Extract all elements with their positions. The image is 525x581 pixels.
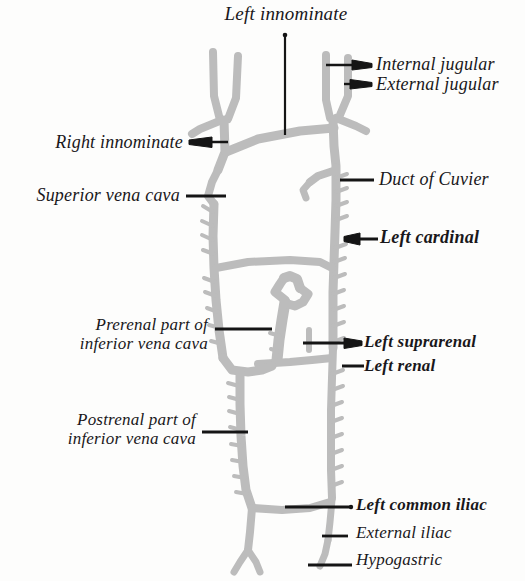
- label-superior-vena-cava: Superior vena cava: [0, 185, 180, 205]
- label-hypogastric: Hypogastric: [356, 550, 442, 569]
- label-left-innominate: Left innominate: [196, 3, 376, 24]
- label-right-innominate: Right innominate: [0, 132, 183, 152]
- label-external-jugular: External jugular: [376, 74, 499, 94]
- arrow-left-cardinal: [344, 233, 360, 245]
- arrow-internal-jugular: [352, 60, 372, 70]
- anatomical-diagram-figure: Left innominate Internal jugular Externa…: [0, 0, 525, 581]
- label-prerenal-inferior-vena-cava: Prerenal part of inferior vena cava: [0, 315, 208, 353]
- label-left-renal: Left renal: [364, 356, 435, 375]
- label-left-common-iliac: Left common iliac: [356, 495, 487, 514]
- arrow-right-innominate: [189, 137, 212, 148]
- arrow-left-suprarenal: [344, 338, 362, 349]
- label-internal-jugular: Internal jugular: [376, 54, 495, 74]
- label-left-suprarenal: Left suprarenal: [364, 332, 476, 351]
- label-postrenal-inferior-vena-cava: Postrenal part of inferior vena cava: [0, 410, 196, 448]
- label-duct-of-cuvier: Duct of Cuvier: [379, 169, 489, 189]
- label-left-cardinal: Left cardinal: [380, 227, 479, 247]
- label-external-iliac: External iliac: [356, 523, 452, 542]
- arrow-external-jugular: [350, 80, 372, 90]
